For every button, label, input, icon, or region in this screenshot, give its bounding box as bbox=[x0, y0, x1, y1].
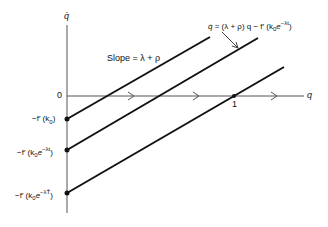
intercept-dot-2 bbox=[65, 148, 70, 153]
x-axis-label: q bbox=[307, 91, 312, 100]
equation-label: q̇ = (λ + ρ) q − f′ (k0e−λt) bbox=[208, 20, 292, 32]
intercept-label-2: −f′ (k0e−λt) bbox=[17, 146, 53, 158]
qdot-line-2 bbox=[67, 38, 258, 150]
slope-label: Slope = λ + ρ bbox=[107, 54, 160, 63]
intercept-dot-1 bbox=[65, 117, 70, 122]
intercept-3-sup: −λT̄ bbox=[40, 189, 50, 195]
equation-pointer bbox=[222, 32, 237, 47]
y-axis-label: q̇ bbox=[64, 12, 69, 21]
intercept-label-1: −f′ (k0) bbox=[32, 115, 55, 125]
equation-close: ) bbox=[289, 22, 292, 31]
steady-state-dot bbox=[232, 94, 236, 98]
intercept-2-pre: −f′ (k bbox=[17, 148, 34, 157]
origin-label: 0 bbox=[57, 91, 62, 100]
intercept-label-3: −f′ (k0e−λT̄) bbox=[15, 189, 53, 201]
unit-point-label: 1 bbox=[232, 100, 237, 109]
intercept-3-post: ) bbox=[50, 191, 53, 200]
intercept-2-post: ) bbox=[50, 148, 53, 157]
equation-sup: −λt bbox=[281, 20, 289, 26]
intercept-1-post: ) bbox=[53, 114, 56, 123]
intercept-dot-3 bbox=[65, 191, 70, 196]
intercept-1-pre: −f′ (k bbox=[32, 114, 49, 123]
equation-mid: = (λ + ρ) q − f′ (k bbox=[212, 22, 273, 31]
intercept-3-pre: −f′ (k bbox=[15, 191, 32, 200]
